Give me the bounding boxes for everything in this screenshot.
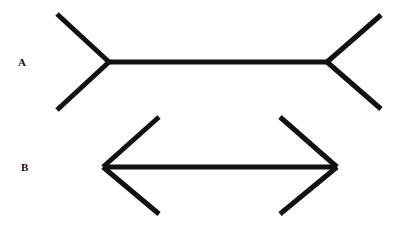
- fin-line: [57, 62, 109, 110]
- fin-line: [103, 117, 159, 167]
- fin-line: [280, 117, 337, 167]
- fin-line: [280, 167, 337, 214]
- figure-a-lines: [57, 14, 381, 110]
- fin-line: [327, 15, 381, 62]
- figure-b-lines: [103, 117, 337, 214]
- fin-line: [103, 167, 159, 214]
- fin-line: [57, 14, 109, 62]
- fin-line: [327, 62, 381, 109]
- muller-lyer-diagram: A B: [0, 0, 403, 231]
- diagram-canvas: [0, 0, 403, 231]
